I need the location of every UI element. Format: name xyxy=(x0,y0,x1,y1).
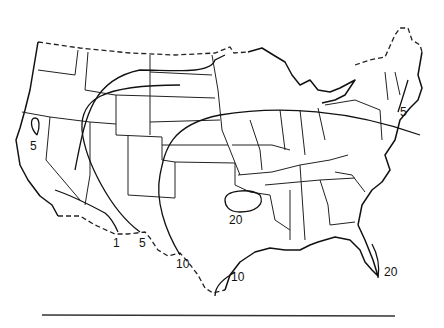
us-isoline-map: 5 1 5 10 20 10 20 5 xyxy=(0,0,444,328)
isoline-label-ca-5: 5 xyxy=(30,139,37,153)
gulf-coast xyxy=(225,225,378,290)
isoline-label-fl-20: 20 xyxy=(384,265,398,279)
canada-border-east xyxy=(355,28,422,65)
great-lakes xyxy=(248,48,355,103)
isoline-label-sw-1: 1 xyxy=(113,236,120,250)
isoline-label-tx-10-gulf: 10 xyxy=(231,270,245,284)
isoline-5-california xyxy=(31,118,39,135)
isoline-label-ne-5: 5 xyxy=(400,105,407,119)
bottom-rule xyxy=(42,315,395,316)
atlantic-coast xyxy=(358,52,422,225)
isoline-label-tx-10-west: 10 xyxy=(176,257,190,271)
pacific-coast xyxy=(16,42,58,216)
mexico-border xyxy=(58,216,225,293)
isoline-label-sw-5: 5 xyxy=(139,236,146,250)
canada-border xyxy=(38,42,248,55)
isoline-5 xyxy=(82,85,180,232)
isoline-20-closed xyxy=(225,191,261,212)
state-boundaries xyxy=(22,50,400,240)
isoline-label-tx-20: 20 xyxy=(229,213,243,227)
